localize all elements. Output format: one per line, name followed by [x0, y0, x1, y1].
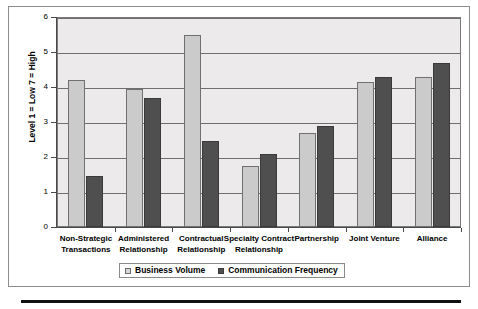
y-tick-label-text: 1: [31, 188, 48, 196]
chart-figure: Level 1 = Low 7 = High 0123456 Non-Strat…: [8, 6, 470, 287]
bar-communication-frequency-6: [433, 63, 450, 228]
y-tick-label-text: 4: [31, 83, 48, 91]
y-tick-mark-4: [51, 87, 56, 88]
legend-item-0[interactable]: Business Volume: [125, 266, 205, 275]
y-tick-label: 5: [31, 48, 48, 56]
gridline-4: [58, 88, 460, 89]
y-axis-title: Level 1 = Low 7 = High: [27, 22, 37, 172]
bar-business-volume-5: [357, 82, 374, 227]
x-tick-mark-6: [461, 228, 462, 232]
y-tick-label-text: 2: [31, 153, 48, 161]
x-tick-mark-1: [172, 228, 173, 232]
bottom-horizontal-rule: [21, 300, 461, 303]
x-tick-mark-4: [346, 228, 347, 232]
gridline-3: [58, 123, 460, 124]
x-tick-mark-5: [403, 228, 404, 232]
y-tick-label: 1: [31, 188, 48, 196]
y-tick-mark-3: [51, 122, 56, 123]
legend-swatch-communication-frequency: [218, 268, 224, 274]
x-axis-label-6: Alliance: [394, 234, 470, 245]
x-tick-mark-2: [230, 228, 231, 232]
bar-communication-frequency-2: [202, 141, 219, 227]
gridline-6: [58, 18, 460, 19]
y-tick-mark-5: [51, 52, 56, 53]
x-axis-line: [56, 227, 461, 228]
y-tick-mark-1: [51, 192, 56, 193]
bar-business-volume-3: [242, 166, 259, 227]
bar-communication-frequency-0: [86, 176, 103, 227]
bar-communication-frequency-3: [260, 154, 277, 228]
bar-business-volume-1: [126, 89, 143, 227]
y-axis-line: [56, 17, 57, 228]
legend-label-text: Communication Frequency: [228, 266, 338, 275]
gridline-5: [58, 53, 460, 54]
bar-business-volume-6: [415, 77, 432, 228]
bar-communication-frequency-4: [317, 126, 334, 228]
legend-swatch-business-volume: [125, 268, 131, 274]
bar-communication-frequency-5: [375, 77, 392, 228]
y-tick-label-text: 0: [31, 223, 48, 231]
y-tick-label: 3: [31, 118, 48, 126]
y-tick-label: 0: [31, 223, 48, 231]
y-tick-mark-0: [51, 227, 56, 228]
x-axis-label-line: Alliance: [394, 234, 470, 245]
y-tick-mark-6: [51, 17, 56, 18]
y-tick-label: 4: [31, 83, 48, 91]
y-tick-mark-2: [51, 157, 56, 158]
legend-label-text: Business Volume: [135, 266, 205, 275]
x-axis-label-line: Relationship: [221, 245, 297, 256]
y-tick-label: 2: [31, 153, 48, 161]
bar-business-volume-0: [68, 80, 85, 227]
y-tick-label-text: 3: [31, 118, 48, 126]
y-tick-label-text: 5: [31, 48, 48, 56]
x-tick-mark-3: [288, 228, 289, 232]
bar-business-volume-2: [184, 35, 201, 228]
y-tick-label: 6: [31, 13, 48, 21]
chart-legend: Business VolumeCommunication Frequency: [119, 263, 345, 278]
y-tick-label-text: 6: [31, 13, 48, 21]
x-tick-mark-0: [115, 228, 116, 232]
bar-communication-frequency-1: [144, 98, 161, 228]
legend-item-1[interactable]: Communication Frequency: [218, 266, 338, 275]
bar-business-volume-4: [299, 133, 316, 228]
